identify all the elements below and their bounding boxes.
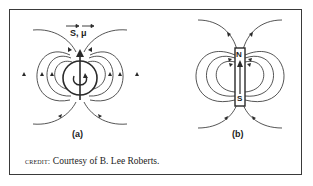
panel-a-label: (a) (72, 129, 83, 139)
figure-credit: credit: Courtesy of B. Lee Roberts. (25, 156, 159, 166)
vector-labels-s-mu: S, μ (70, 28, 87, 38)
panel-b-label: (b) (232, 129, 244, 139)
credit-text: Courtesy of B. Lee Roberts. (53, 156, 160, 166)
south-pole-label: S (237, 94, 242, 103)
north-pole-label: N (236, 50, 242, 59)
credit-lead: credit: (25, 156, 50, 166)
